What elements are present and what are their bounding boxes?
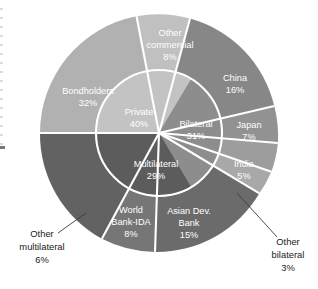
callout-other-bilateral-line1: Other xyxy=(276,236,299,247)
callout-other-multilateral: Other multilateral 6% xyxy=(19,213,86,265)
label-china-line2: 16% xyxy=(226,85,244,95)
label-india-line2: 5% xyxy=(237,171,250,181)
callout-other-multilateral-line2: multilateral xyxy=(19,241,64,252)
label-other-commercial-line3: 8% xyxy=(163,52,176,62)
label-multilateral-line1: Multilateral xyxy=(134,159,178,169)
label-bilateral-line2: 31% xyxy=(187,131,205,141)
sunburst-svg: Bondholders 32% Other commercial 8% Chin… xyxy=(0,0,318,289)
label-asian-dev-bank-line1: Asian Dev. xyxy=(167,206,211,216)
label-asian-dev-bank-line2: Bank xyxy=(179,218,200,228)
callout-other-bilateral-line2: bilateral xyxy=(272,249,305,260)
label-world-bank-ida-line3: 8% xyxy=(124,229,137,239)
label-india-line1: India xyxy=(234,159,255,169)
scan-edge-artifact-mark xyxy=(0,146,5,149)
label-multilateral-line2: 29% xyxy=(147,171,165,181)
label-asian-dev-bank-line3: 15% xyxy=(180,230,198,240)
callout-other-multilateral-line1: Other xyxy=(30,228,53,239)
label-world-bank-ida-line2: Bank-IDA xyxy=(111,217,151,227)
label-japan-line2: 7% xyxy=(242,132,255,142)
label-private-line1: Private xyxy=(125,107,154,117)
label-world-bank-ida-line1: World xyxy=(119,205,143,215)
label-bondholders-line2: 32% xyxy=(79,98,97,108)
label-china-line1: China xyxy=(223,73,248,83)
label-japan-line1: Japan xyxy=(236,120,261,130)
callout-other-bilateral-line3: 3% xyxy=(281,262,295,273)
label-private-line2: 40% xyxy=(130,119,148,129)
scan-edge-artifact xyxy=(0,8,3,148)
label-other-commercial-line2: commercial xyxy=(147,40,194,50)
sunburst-chart: Bondholders 32% Other commercial 8% Chin… xyxy=(0,0,318,289)
label-bilateral-line1: Bilateral xyxy=(179,119,212,129)
label-bondholders-line1: Bondholders xyxy=(62,86,114,96)
label-other-commercial-line1: Other xyxy=(159,28,182,38)
callout-other-multilateral-line3: 6% xyxy=(35,254,49,265)
